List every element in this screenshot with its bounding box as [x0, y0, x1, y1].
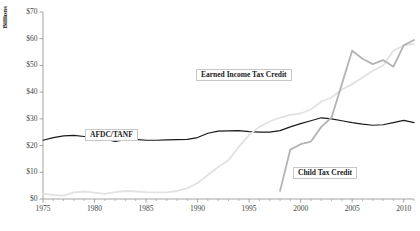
x-axis-tick-label: 2000 — [286, 204, 316, 213]
axis-lines — [43, 12, 414, 199]
x-axis-tick-label: 2010 — [389, 204, 419, 213]
data-series-layer — [43, 40, 414, 195]
y-axis-tick-label: $70 — [14, 7, 38, 16]
series-annotation-label: Earned Income Tax Credit — [196, 69, 292, 81]
series-annotation-label: Child Tax Credit — [293, 167, 357, 179]
y-axis-tick-label: $30 — [14, 114, 38, 123]
x-axis-tick-label: 1980 — [80, 204, 110, 213]
y-axis-tick-label: $50 — [14, 60, 38, 69]
x-axis-tick-label: 1975 — [28, 204, 58, 213]
series-annotation-label: AFDC/TANF — [85, 129, 138, 141]
y-axis-tick-label: $40 — [14, 87, 38, 96]
y-axis-tick-label: $60 — [14, 34, 38, 43]
y-axis-tick-label: $10 — [14, 167, 38, 176]
chart-container: Billions $0$10$20$30$40$50$60$70 1975198… — [0, 0, 420, 231]
x-axis-tick-label: 1985 — [131, 204, 161, 213]
chart-plot-area — [0, 0, 420, 231]
x-axis-tick-label: 1990 — [183, 204, 213, 213]
y-axis-tick-label: $20 — [14, 141, 38, 150]
series-line — [43, 44, 414, 195]
x-axis-tick-label: 2005 — [337, 204, 367, 213]
y-axis-tick-label: $0 — [14, 194, 38, 203]
y-axis-ticks — [40, 12, 44, 199]
x-axis-tick-label: 1995 — [234, 204, 264, 213]
x-axis-ticks — [43, 199, 404, 203]
